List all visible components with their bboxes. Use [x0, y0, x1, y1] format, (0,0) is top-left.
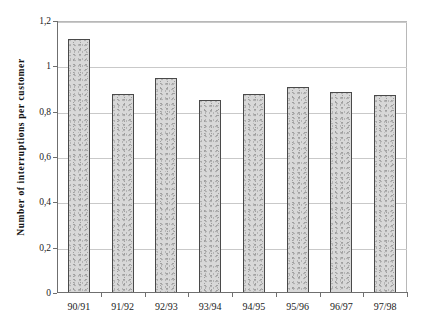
y-tick-mark — [53, 157, 57, 158]
y-tick-label: 0 — [7, 288, 51, 298]
y-tick-label: 0,4 — [7, 197, 51, 207]
bar — [330, 92, 352, 293]
x-tick-mark — [232, 293, 233, 297]
y-tick-label: 1 — [7, 61, 51, 71]
x-tick-mark — [320, 293, 321, 297]
gridline — [57, 249, 407, 250]
bar — [112, 94, 134, 293]
bar — [374, 95, 396, 293]
y-tick-mark — [53, 112, 57, 113]
y-tick-mark — [53, 66, 57, 67]
bar — [287, 87, 309, 293]
gridline — [57, 22, 407, 23]
y-axis-tick-labels: 00,20,40,60,811,2 — [0, 0, 51, 333]
y-tick-label: 0,2 — [7, 243, 51, 253]
x-tick-label: 97/98 — [355, 301, 415, 312]
y-tick-mark — [53, 202, 57, 203]
x-tick-mark — [276, 293, 277, 297]
y-tick-label: 1,2 — [7, 16, 51, 26]
gridline — [57, 113, 407, 114]
bar — [199, 100, 221, 293]
gridline — [57, 67, 407, 68]
bar — [243, 94, 265, 293]
plot-area — [57, 21, 407, 293]
y-tick-mark — [53, 248, 57, 249]
y-axis-line — [57, 21, 58, 293]
y-tick-label: 0,6 — [7, 152, 51, 162]
gridline — [57, 158, 407, 159]
bar — [155, 78, 177, 293]
bar-chart: Number of interruptions per customer 00,… — [0, 0, 427, 333]
bar — [68, 39, 90, 293]
gridline — [57, 203, 407, 204]
x-tick-mark — [407, 293, 408, 297]
x-tick-mark — [101, 293, 102, 297]
x-tick-mark — [363, 293, 364, 297]
y-tick-mark — [53, 21, 57, 22]
y-tick-label: 0,8 — [7, 107, 51, 117]
y-tick-mark — [53, 293, 57, 294]
x-tick-mark — [145, 293, 146, 297]
x-tick-mark — [188, 293, 189, 297]
